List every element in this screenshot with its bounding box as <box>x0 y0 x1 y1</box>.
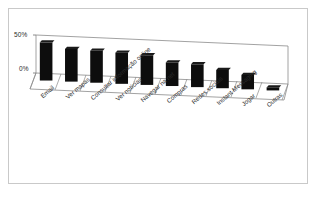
bar-top-face <box>40 40 55 42</box>
y-axis-label-0: 0% <box>19 65 29 72</box>
bar-top-face <box>191 62 206 64</box>
bar-top-face <box>115 50 130 52</box>
bar-top-face <box>216 68 231 70</box>
bar <box>267 87 280 90</box>
bar <box>90 51 103 83</box>
bar <box>65 49 78 82</box>
y-axis-label-50: 50% <box>14 31 27 38</box>
bar-top-face <box>90 49 105 51</box>
bar-top-face <box>267 85 282 87</box>
chart-figure: 50% 0% EmailVer mapasConsultar informaçã… <box>0 0 319 197</box>
bar-top-face <box>65 47 80 49</box>
bar <box>191 64 204 87</box>
bar-top-face <box>166 60 181 62</box>
bar <box>40 43 53 81</box>
